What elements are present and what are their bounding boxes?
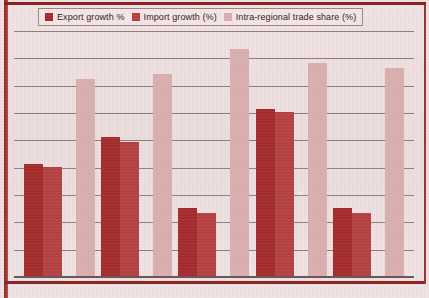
bar-group-2 [101, 30, 178, 276]
legend-item-3: Intra-regional trade share (%) [224, 12, 357, 22]
legend-swatch-icon [224, 13, 232, 21]
bar-series2-group1 [43, 167, 62, 276]
bar-group-3 [178, 30, 255, 276]
bar-series3-group5 [385, 68, 404, 276]
bar-group-container [14, 30, 414, 276]
legend-item-label: Export growth % [57, 12, 125, 22]
chart-legend: Export growth %Import growth (%)Intra-re… [38, 8, 363, 26]
bar-series3-group2 [153, 74, 172, 276]
legend-item-label: Intra-regional trade share (%) [236, 12, 357, 22]
legend-swatch-icon [45, 13, 53, 21]
bar-series2-group5 [352, 213, 371, 276]
legend-item-1: Export growth % [45, 12, 125, 22]
bar-group-4 [256, 30, 333, 276]
bar-series2-group4 [275, 112, 294, 276]
bar-series3-group3 [230, 49, 249, 276]
bar-series3-group1 [76, 79, 95, 276]
legend-swatch-icon [132, 13, 140, 21]
bar-series1-group3 [178, 208, 197, 276]
bar-series1-group2 [101, 137, 120, 276]
bar-series2-group2 [120, 142, 139, 276]
bar-series3-group4 [308, 63, 327, 276]
bar-group-5 [333, 30, 410, 276]
bar-series2-group3 [197, 213, 216, 276]
legend-item-label: Import growth (%) [144, 12, 217, 22]
bar-group-1 [24, 30, 101, 276]
scanned-chart-page: Export growth %Import growth (%)Intra-re… [0, 0, 429, 298]
page-bottom-rule [4, 281, 426, 284]
page-right-rule [424, 2, 426, 284]
bar-series1-group5 [333, 208, 352, 276]
bar-series1-group1 [24, 164, 43, 276]
x-axis-line [14, 276, 414, 278]
bar-series1-group4 [256, 109, 275, 276]
chart-plot-area [14, 30, 414, 278]
legend-item-2: Import growth (%) [132, 12, 217, 22]
